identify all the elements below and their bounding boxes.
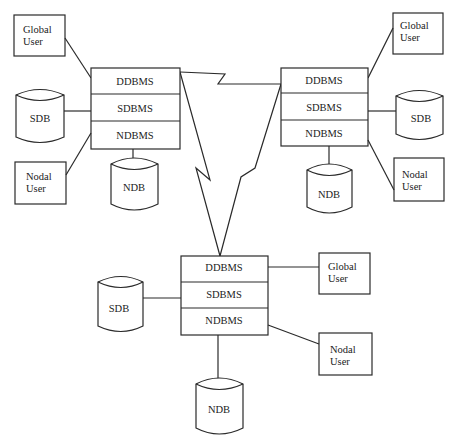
global-user-box: Global User	[14, 15, 65, 56]
global-user-box: Global User	[393, 13, 443, 54]
dbms-stack: DDBMS SDBMS NDBMS	[181, 256, 268, 335]
connector	[268, 325, 319, 344]
nodal-user-label-2: User	[402, 181, 422, 192]
sdbms-layer: SDBMS	[117, 103, 153, 114]
sdbms-layer: SDBMS	[306, 102, 342, 113]
global-user-box: Global User	[319, 253, 370, 294]
ndbms-layer: NDBMS	[305, 128, 343, 139]
nodal-user-label-1: Nodal	[26, 171, 52, 182]
site-right: Global User DDBMS SDBMS NDBMS SDB Nodal …	[281, 13, 444, 213]
ndb-cylinder: NDB	[111, 158, 158, 210]
network-links	[180, 72, 281, 256]
sdb-label: SDB	[30, 113, 50, 124]
link-right-bottom	[220, 84, 281, 256]
ndbms-layer: NDBMS	[116, 130, 154, 141]
nodal-user-label-2: User	[26, 183, 46, 194]
sdb-cylinder: SDB	[396, 91, 443, 140]
ddbms-layer: DDBMS	[305, 75, 343, 86]
nodal-user-label-2: User	[330, 356, 350, 367]
global-user-label-2: User	[328, 273, 348, 284]
nodal-user-box: Nodal User	[15, 162, 66, 204]
ddbms-layer: DDBMS	[205, 262, 243, 273]
nodal-user-box: Nodal User	[394, 158, 444, 201]
ndb-label: NDB	[318, 189, 340, 200]
nodal-user-label-1: Nodal	[330, 344, 356, 355]
dbms-stack: DDBMS SDBMS NDBMS	[281, 68, 368, 146]
connector	[66, 133, 91, 175]
connector	[368, 28, 393, 78]
nodal-user-box: Nodal User	[319, 333, 372, 375]
site-bottom: DDBMS SDBMS NDBMS Global User SDB Nodal …	[98, 253, 372, 434]
site-left: Global User DDBMS SDBMS NDBMS SDB Nodal …	[14, 15, 180, 210]
connector	[368, 140, 394, 190]
global-user-label-2: User	[23, 36, 43, 47]
global-user-label-2: User	[400, 32, 420, 43]
link-left-right	[180, 72, 281, 84]
ndb-cylinder: NDB	[196, 378, 243, 434]
link-left-bottom	[180, 72, 220, 256]
ndb-label: NDB	[123, 182, 145, 193]
global-user-label-1: Global	[328, 261, 357, 272]
distributed-dbms-diagram: Global User DDBMS SDBMS NDBMS SDB Nodal …	[0, 0, 457, 445]
ndb-cylinder: NDB	[307, 164, 352, 213]
dbms-stack: DDBMS SDBMS NDBMS	[91, 68, 180, 149]
nodal-user-label-1: Nodal	[402, 169, 428, 180]
sdb-label: SDB	[109, 303, 129, 314]
sdbms-layer: SDBMS	[206, 289, 242, 300]
global-user-label-1: Global	[400, 20, 429, 31]
sdb-label: SDB	[411, 113, 431, 124]
sdb-cylinder: SDB	[16, 90, 64, 143]
sdb-cylinder: SDB	[98, 277, 143, 332]
ndbms-layer: NDBMS	[205, 315, 243, 326]
ndb-label: NDB	[208, 404, 230, 415]
ddbms-layer: DDBMS	[116, 76, 154, 87]
global-user-label-1: Global	[23, 24, 52, 35]
connector	[65, 38, 91, 78]
